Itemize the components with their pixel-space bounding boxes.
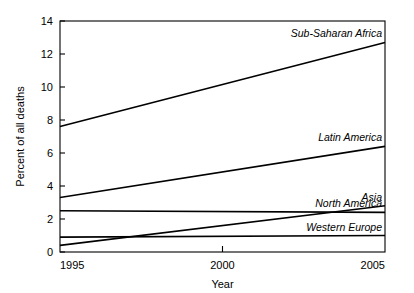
series-label: Western Europe	[306, 221, 382, 233]
y-tick-label: 4	[47, 180, 53, 192]
x-axis-tick-labels: 199520002005	[60, 259, 385, 271]
series-label: Latin America	[318, 131, 382, 143]
line-chart: 02468101214 199520002005 Sub-Saharan Afr…	[0, 0, 414, 293]
series-label: North America	[315, 197, 382, 209]
series-line	[60, 236, 385, 238]
y-tick-label: 8	[47, 114, 53, 126]
y-tick-label: 14	[41, 15, 53, 27]
x-tick-label: 2005	[361, 259, 385, 271]
x-tick-label: 1995	[60, 259, 84, 271]
series-label: Sub-Saharan Africa	[291, 27, 382, 39]
y-axis-title: Percent of all deaths	[14, 86, 26, 187]
y-tick-label: 0	[47, 246, 53, 258]
y-tick-label: 10	[41, 81, 53, 93]
y-tick-label: 6	[47, 147, 53, 159]
y-axis-ticks	[60, 21, 65, 252]
chart-canvas: 02468101214 199520002005 Sub-Saharan Afr…	[0, 0, 414, 293]
series-line	[60, 146, 385, 197]
y-tick-label: 12	[41, 48, 53, 60]
y-axis-tick-labels: 02468101214	[41, 15, 53, 258]
y-tick-label: 2	[47, 213, 53, 225]
series-lines	[60, 42, 385, 245]
x-tick-label: 2000	[210, 259, 234, 271]
series-labels: Sub-Saharan AfricaLatin AmericaAsiaNorth…	[291, 27, 382, 232]
x-axis-title: Year	[211, 278, 234, 290]
series-line	[60, 42, 385, 126]
